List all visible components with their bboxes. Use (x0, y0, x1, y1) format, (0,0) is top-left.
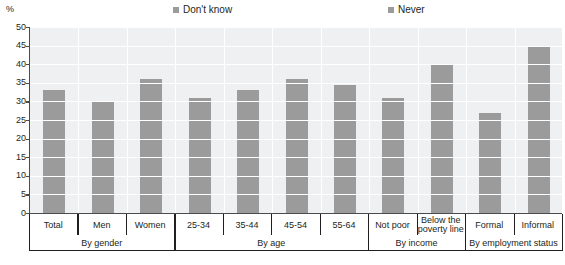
gridline-horizontal (30, 27, 562, 28)
x-axis-category-label-line: Informal (522, 220, 555, 230)
y-axis-tick-mark (26, 176, 30, 177)
y-axis-tick-mark (26, 27, 30, 28)
bar (528, 46, 550, 213)
x-axis-bottom-rule (29, 250, 562, 251)
chart-container: Don't know Never % 50454035302520151050 … (0, 0, 565, 265)
chart-legend: Don't know Never (0, 4, 565, 21)
y-axis-tick-label: 0 (4, 209, 26, 218)
y-axis-tick-label: 50 (4, 23, 26, 32)
x-axis-category-label: Not poor (368, 214, 416, 235)
gridline-vertical (321, 27, 322, 213)
gridline-horizontal (30, 194, 562, 195)
legend-item-dont-know: Don't know (173, 4, 232, 15)
gridline-vertical (369, 27, 370, 213)
x-axis-group-label: By age (174, 236, 368, 250)
gridline-vertical (515, 27, 516, 213)
bar (382, 98, 404, 213)
x-axis-category-label-line: 55-64 (332, 220, 355, 230)
x-axis-category-label-line: 35-44 (236, 220, 259, 230)
gridline-vertical (466, 27, 467, 213)
y-axis-tick-mark (26, 101, 30, 102)
gridline-horizontal (30, 157, 562, 158)
y-axis-tick-label: 45 (4, 41, 26, 50)
y-axis-tick-label: 40 (4, 60, 26, 69)
x-axis-divider (271, 214, 272, 235)
x-axis-category-label: 35-44 (223, 214, 271, 235)
legend-label-never: Never (398, 4, 425, 15)
y-axis-tick-label: 35 (4, 78, 26, 87)
gridline-vertical (224, 27, 225, 213)
gridline-horizontal (30, 64, 562, 65)
y-axis-tick-mark (26, 194, 30, 195)
y-axis-tick-mark (26, 157, 30, 158)
legend-swatch-never (388, 7, 394, 13)
x-axis-group-label: By gender (29, 236, 174, 250)
y-axis-tick-label: 20 (4, 134, 26, 143)
x-axis-category-label-line: 45-54 (284, 220, 307, 230)
x-axis-divider (320, 214, 321, 235)
x-axis-category-label: Total (29, 214, 77, 235)
x-axis: TotalMenWomen25-3435-4445-5455-64Not poo… (29, 213, 562, 265)
gridline-vertical (127, 27, 128, 213)
y-axis-tick-label: 5 (4, 190, 26, 199)
x-axis-category-label-line: Total (44, 220, 63, 230)
legend-label-dont-know: Don't know (183, 4, 232, 15)
bar (189, 98, 211, 213)
x-axis-category-label-line: Formal (475, 220, 503, 230)
gridline-vertical (175, 27, 176, 213)
gridline-horizontal (30, 101, 562, 102)
x-axis-category-label: Men (77, 214, 125, 235)
bar (140, 79, 162, 213)
legend-swatch-dont-know (173, 7, 179, 13)
y-axis-tick-label: 10 (4, 171, 26, 180)
x-axis-category-label: Below thepoverty line (417, 214, 465, 235)
y-axis-tick-mark (26, 46, 30, 47)
x-axis-group-label: By income (368, 236, 465, 250)
x-axis-category-label-line: Women (135, 220, 166, 230)
x-axis-divider (126, 214, 127, 235)
y-axis-tick-mark (26, 120, 30, 121)
x-axis-category-label: 45-54 (271, 214, 319, 235)
y-axis-tick-label: 25 (4, 116, 26, 125)
x-axis-category-label: Informal (514, 214, 562, 235)
legend-item-never: Never (388, 4, 425, 15)
bar (479, 113, 501, 213)
y-axis-tick-mark (26, 139, 30, 140)
gridline-vertical (418, 27, 419, 213)
plot-area (29, 27, 562, 213)
y-axis-unit-label: % (6, 4, 14, 14)
x-axis-category-label: 25-34 (174, 214, 222, 235)
x-axis-divider (223, 214, 224, 235)
x-axis-divider (514, 214, 515, 235)
gridline-horizontal (30, 46, 562, 47)
gridline-horizontal (30, 139, 562, 140)
x-axis-category-label-line: poverty line (418, 225, 464, 234)
gridline-vertical (272, 27, 273, 213)
x-axis-category-label: Formal (465, 214, 513, 235)
gridline-horizontal (30, 83, 562, 84)
x-axis-category-label-line: Men (93, 220, 111, 230)
y-axis-tick-label: 15 (4, 153, 26, 162)
x-axis-divider (417, 214, 418, 235)
gridline-horizontal (30, 176, 562, 177)
x-axis-divider (562, 214, 563, 251)
y-axis-tick-label: 30 (4, 97, 26, 106)
x-axis-category-label-line: Not poor (375, 220, 410, 230)
x-axis-divider (77, 214, 78, 235)
y-axis: % 50454035302520151050 (0, 0, 26, 265)
x-axis-category-label-line: 25-34 (187, 220, 210, 230)
x-axis-category-label: 55-64 (320, 214, 368, 235)
x-axis-category-label: Women (126, 214, 174, 235)
bar (286, 79, 308, 213)
gridline-horizontal (30, 120, 562, 121)
x-axis-group-label: By employment status (465, 236, 562, 250)
gridline-vertical (78, 27, 79, 213)
y-axis-tick-mark (26, 64, 30, 65)
y-axis-tick-mark (26, 83, 30, 84)
